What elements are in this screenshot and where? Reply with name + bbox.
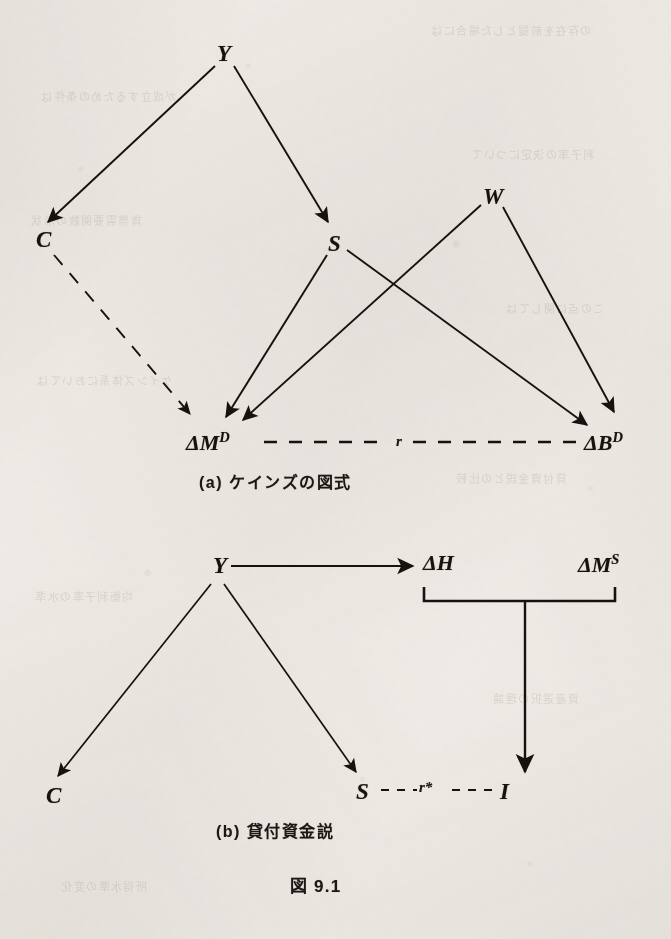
node-label-w-a: W <box>483 185 503 208</box>
caption-diagram-b: (b) 貸付資金説 <box>216 824 334 840</box>
edge-w-to-delta-m <box>243 205 481 420</box>
node-label-delta-b-demand: ΔBD <box>584 430 623 454</box>
edge-c-to-delta-m-dashed <box>54 255 190 414</box>
delta-ms-superscript: S <box>611 551 619 567</box>
node-label-s-a: S <box>328 232 341 255</box>
edge-y-to-s <box>234 66 328 222</box>
edge-y-to-c-b <box>58 584 211 776</box>
node-label-c-a: C <box>36 228 51 251</box>
node-label-delta-m-supply: ΔMS <box>578 552 619 576</box>
delta-m-base: ΔM <box>186 430 219 455</box>
node-label-y-a: Y <box>217 42 231 65</box>
figure-page: の存在を前提とした場合には が成立するための条件は 利子率の決定について 貨幣需… <box>0 0 671 939</box>
delta-m-superscript: D <box>219 429 229 445</box>
node-label-c-b: C <box>46 784 61 807</box>
delta-ms-base: ΔM <box>578 552 611 577</box>
figure-vector-layer <box>0 0 671 939</box>
delta-b-base: ΔB <box>584 430 612 455</box>
figure-number: 図 9.1 <box>290 878 341 895</box>
edge-y-to-c <box>48 66 215 222</box>
edge-y-to-s-b <box>224 584 356 772</box>
bracket-delta-h-delta-m <box>424 587 615 601</box>
diagram-b-edges <box>58 566 615 790</box>
node-label-y-b: Y <box>213 554 227 577</box>
node-label-r-a: r <box>396 434 402 449</box>
node-label-s-b: S <box>356 780 369 803</box>
edge-w-to-delta-b <box>503 207 614 412</box>
node-label-r-star: r* <box>419 780 432 795</box>
edge-s-to-delta-m <box>226 255 327 417</box>
caption-diagram-a: (a) ケインズの図式 <box>199 475 352 491</box>
node-label-delta-m-demand: ΔMD <box>186 430 230 454</box>
delta-b-superscript: D <box>612 429 622 445</box>
edge-s-to-delta-b <box>347 250 587 425</box>
node-label-delta-h: ΔH <box>423 552 454 574</box>
node-label-i-b: I <box>500 780 509 803</box>
